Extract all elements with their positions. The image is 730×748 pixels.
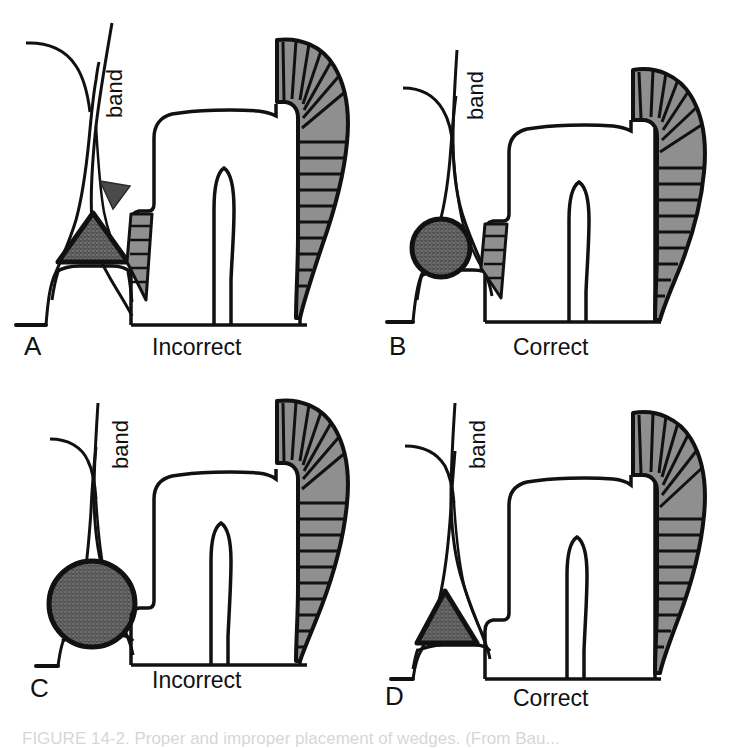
panel-caption-d: Correct xyxy=(513,687,588,710)
pulp-canal-outline xyxy=(211,523,231,665)
striped-fan-right xyxy=(277,400,348,661)
tooth-outline-left xyxy=(131,469,276,665)
band-label: band xyxy=(104,69,126,118)
pulp-canal-outline xyxy=(569,182,589,322)
gingival-crest-left xyxy=(417,645,490,651)
panel-a-illustration xyxy=(0,0,365,368)
band-label: band xyxy=(465,71,487,120)
tooth-outline-left xyxy=(485,120,631,322)
panel-c: band C Incorrect xyxy=(0,369,365,737)
crest-drop-left xyxy=(417,275,422,300)
striped-fan-right xyxy=(633,412,705,673)
panel-letter-b: B xyxy=(389,333,407,359)
wedge-shape-circle-large xyxy=(49,561,135,647)
gingival-crest-left xyxy=(56,266,130,272)
gum-curve xyxy=(405,446,454,503)
gum-curve xyxy=(403,88,453,148)
arrowhead-icon xyxy=(100,181,130,209)
band-label: band xyxy=(110,420,132,469)
panel-letter-d: D xyxy=(385,683,404,709)
panel-d-illustration xyxy=(365,369,730,737)
panel-d: band D Correct xyxy=(365,369,730,737)
gum-curve xyxy=(50,439,96,499)
panel-caption-c: Incorrect xyxy=(152,669,241,692)
panel-a: band A Incorrect xyxy=(0,0,365,368)
tooth-outline-left xyxy=(485,475,631,679)
panel-letter-a: A xyxy=(24,333,42,359)
band-label: band xyxy=(467,420,489,469)
panel-caption-a: Incorrect xyxy=(152,336,241,359)
gum-curve xyxy=(26,43,90,112)
wedge-shape-circle xyxy=(412,219,470,277)
figure-bottom-caption: FIGURE 14-2. Proper and improper placeme… xyxy=(22,730,560,747)
pulp-canal-outline xyxy=(567,537,587,679)
panel-letter-c: C xyxy=(30,675,49,701)
panel-caption-b: Correct xyxy=(513,336,588,359)
pulp-canal-outline xyxy=(214,168,234,325)
panel-b: band B Correct xyxy=(365,0,730,368)
panel-b-illustration xyxy=(365,0,730,368)
striped-fan-right xyxy=(277,39,348,318)
striped-fan-right xyxy=(633,69,705,320)
